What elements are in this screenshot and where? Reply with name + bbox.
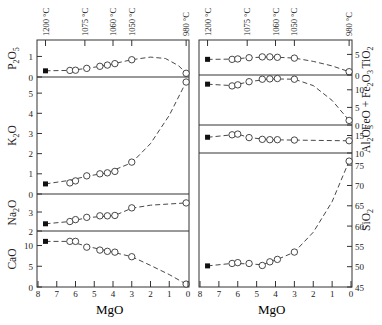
temperature-label: 1075 °C [242,7,252,36]
data-point [84,214,90,220]
y-axis-label: FeO + Fe2O3 [360,70,375,130]
data-point [72,67,78,73]
y-tick-label: 45 [355,283,365,293]
data-point [112,60,118,66]
data-point [291,249,297,255]
column-left: 01P2O5012345K2O23Na2O0510CaO876543210120… [6,7,191,299]
data-point [84,173,90,179]
x-tick-label: 0 [349,289,354,299]
data-point [274,75,280,81]
x-tick-label: 3 [292,289,297,299]
x-tick-label: 5 [254,289,259,299]
x-tick-label: 8 [198,289,203,299]
x-tick-label: 0 [186,289,191,299]
x-axis-label-right: MgO [258,302,285,318]
data-point [183,70,189,76]
x-tick-label: 2 [311,289,316,299]
y-tick-label: 10 [24,241,34,251]
data-point [129,205,135,211]
temperature-label: 1200 °C [203,7,213,36]
starting-composition-marker [43,68,48,73]
data-point [267,137,273,143]
panel-na2o: 23Na2O [6,194,189,237]
y-tick-label: 0 [29,283,34,293]
y-tick-label: 70 [355,181,365,191]
data-point [267,76,273,82]
data-point [235,56,241,62]
y-axis-label: TiO2 [360,46,375,68]
data-point [72,178,78,184]
data-point [259,76,265,82]
y-tick-label: 55 [355,242,365,252]
data-point [346,69,352,75]
data-point [97,171,103,177]
y-tick-label: 2 [29,149,34,159]
y-tick-label: 2 [29,227,34,237]
data-point [84,244,90,250]
x-tick-label: 4 [111,289,116,299]
data-point [235,259,241,265]
data-point [267,259,273,265]
data-point [104,62,110,68]
data-point [346,138,352,144]
y-axis-label: K2O [6,125,21,146]
data-point [97,247,103,253]
x-tick-label: 7 [217,289,222,299]
x-axis-label-left: MgO [96,302,123,318]
x-tick-label: 3 [130,289,135,299]
data-point [112,212,118,218]
data-point [104,170,110,176]
data-point [246,55,252,61]
data-point [129,57,135,63]
data-point [104,213,110,219]
y-axis-label: P2O5 [6,47,21,70]
y-tick-label: 0 [29,190,34,200]
y-axis-label: Na2O [6,200,21,226]
data-point [72,216,78,222]
temperature-label: 1060 °C [108,7,118,36]
y-tick-label: 0 [29,73,34,83]
data-point [259,136,265,142]
starting-composition-marker [205,135,210,140]
column-right: 05TiO20510FeO + Fe2O31015Al2O34550556065… [198,7,375,299]
data-point [291,137,297,143]
x-tick-label: 1 [330,289,335,299]
data-point [235,82,241,88]
data-point [84,65,90,71]
trend-curve [208,161,350,266]
data-point [274,54,280,60]
x-tick-label: 4 [273,289,278,299]
data-point [291,55,297,61]
data-point [246,134,252,140]
temperature-label: 1200 °C [41,7,51,36]
data-point [274,256,280,262]
panel-cao: 0510CaO [6,231,189,293]
temperature-label: 1075 °C [80,7,90,36]
data-point [346,158,352,164]
x-tick-label: 8 [36,289,41,299]
data-point [129,254,135,260]
data-point [235,131,241,137]
temperature-label: 1050 °C [289,7,299,36]
data-point [112,168,118,174]
data-point [112,249,118,255]
temperature-label: 980 °C [344,12,354,36]
y-axis-label: SiO2 [360,209,375,231]
y-axis-label: CaO [6,248,18,269]
data-point [97,213,103,219]
panel-sio2: 45505560657075SiO2 [199,153,375,293]
panel-feofe2o3: 0510FeO + Fe2O3 [199,70,375,130]
starting-composition-marker [43,221,48,226]
y-tick-label: 5 [29,262,34,272]
chart-figure: 01P2O5012345K2O23Na2O0510CaO876543210120… [0,0,382,325]
starting-composition-marker [43,239,48,244]
temperature-label: 1060 °C [271,7,281,36]
x-tick-label: 1 [167,289,172,299]
data-point [259,262,265,268]
data-point [267,54,273,60]
x-tick-label: 7 [55,289,60,299]
temperature-label: 1050 °C [127,7,137,36]
y-tick-label: 50 [355,262,365,272]
y-tick-label: 5 [29,89,34,99]
data-point [129,159,135,165]
